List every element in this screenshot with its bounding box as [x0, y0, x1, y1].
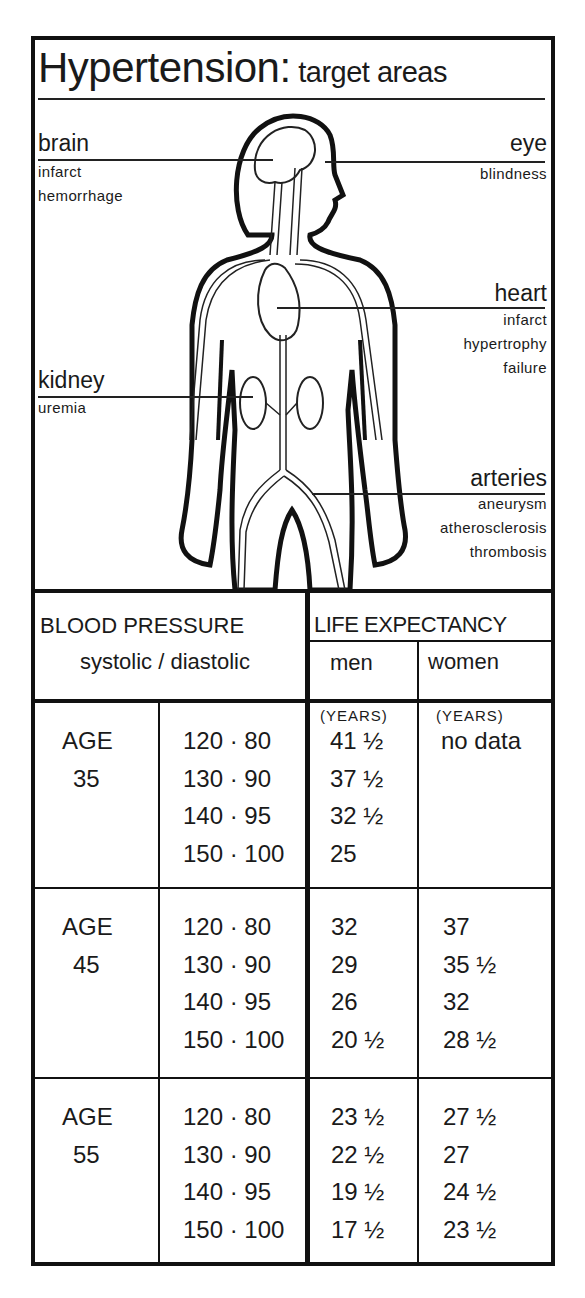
title-underline — [38, 98, 545, 100]
life-expectancy-underline — [310, 640, 555, 642]
organ-label-eye: eye — [510, 130, 547, 157]
age-group-55: AGE 55 — [62, 1098, 113, 1173]
eye-effects: blindness — [480, 162, 547, 186]
women-values-55: 27 ½27 24 ½23 ½ — [443, 1098, 496, 1248]
organ-label-kidney: kidney — [38, 367, 104, 394]
blood-pressure-header: BLOOD PRESSURE — [40, 613, 244, 639]
women-values-35: no data — [441, 722, 521, 760]
group-divider-2 — [31, 1077, 555, 1079]
heart-shape — [258, 264, 299, 340]
header-bottom-border — [31, 699, 555, 703]
human-body-illustration — [160, 110, 420, 590]
bp-values-45: 120 · 80130 · 90 140 · 95150 · 100 — [183, 908, 284, 1058]
men-women-divider — [417, 640, 419, 1266]
brain-shape — [255, 127, 315, 183]
men-values-55: 23 ½22 ½ 19 ½17 ½ — [331, 1098, 384, 1248]
kidney-left-shape — [240, 377, 266, 429]
group-divider-1 — [31, 887, 555, 889]
heart-effects: infarct hypertrophy failure — [463, 308, 547, 380]
bp-values-55: 120 · 80130 · 90 140 · 95150 · 100 — [183, 1098, 284, 1248]
bp-values-35: 120 · 80130 · 90 140 · 95150 · 100 — [183, 722, 284, 872]
brain-effects: infarct hemorrhage — [38, 160, 123, 208]
women-values-45: 3735 ½ 3228 ½ — [443, 908, 496, 1058]
age-group-35: AGE 35 — [62, 722, 113, 797]
table-top-border — [31, 589, 555, 593]
kidney-effects: uremia — [38, 396, 86, 420]
men-values-35: 41 ½37 ½ 32 ½25 — [330, 722, 383, 872]
age-group-45: AGE 45 — [62, 908, 113, 983]
arteries-effects: aneurysm atherosclerosis thrombosis — [440, 492, 547, 564]
women-header: women — [428, 649, 499, 675]
page-title: Hypertension: target areas — [38, 44, 447, 92]
age-bp-divider — [158, 703, 160, 1266]
organ-label-brain: brain — [38, 130, 89, 157]
kidney-right-shape — [297, 377, 323, 429]
men-values-45: 3229 2620 ½ — [331, 908, 384, 1058]
table-center-divider — [305, 589, 310, 1266]
organ-label-heart: heart — [495, 280, 547, 307]
men-header: men — [330, 650, 373, 676]
blood-pressure-subheader: systolic / diastolic — [80, 649, 250, 675]
organ-label-arteries: arteries — [470, 465, 547, 492]
life-expectancy-header: LIFE EXPECTANCY — [314, 612, 507, 638]
